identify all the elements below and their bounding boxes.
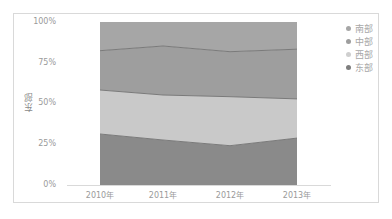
x-tick-2011: 2011年	[138, 191, 188, 201]
legend-item-west[interactable]: 西部	[346, 48, 373, 61]
legend: 南部 中部 西部 东部	[346, 22, 373, 74]
legend-label: 西部	[355, 48, 373, 61]
plot-area	[0, 0, 392, 219]
area-中部	[100, 46, 297, 99]
legend-item-south[interactable]: 南部	[346, 22, 373, 35]
x-tick-2012: 2012年	[205, 191, 255, 201]
legend-dot-icon	[346, 39, 351, 44]
legend-dot-icon	[346, 65, 351, 70]
legend-label: 中部	[355, 35, 373, 48]
x-tick-2010: 2010年	[75, 191, 125, 201]
x-tick-2013: 2013年	[272, 191, 322, 201]
area-南部	[100, 22, 297, 52]
legend-item-central[interactable]: 中部	[346, 35, 373, 48]
legend-label: 东部	[355, 61, 373, 74]
legend-label: 南部	[355, 22, 373, 35]
legend-dot-icon	[346, 26, 351, 31]
legend-dot-icon	[346, 52, 351, 57]
legend-item-east[interactable]: 东部	[346, 61, 373, 74]
